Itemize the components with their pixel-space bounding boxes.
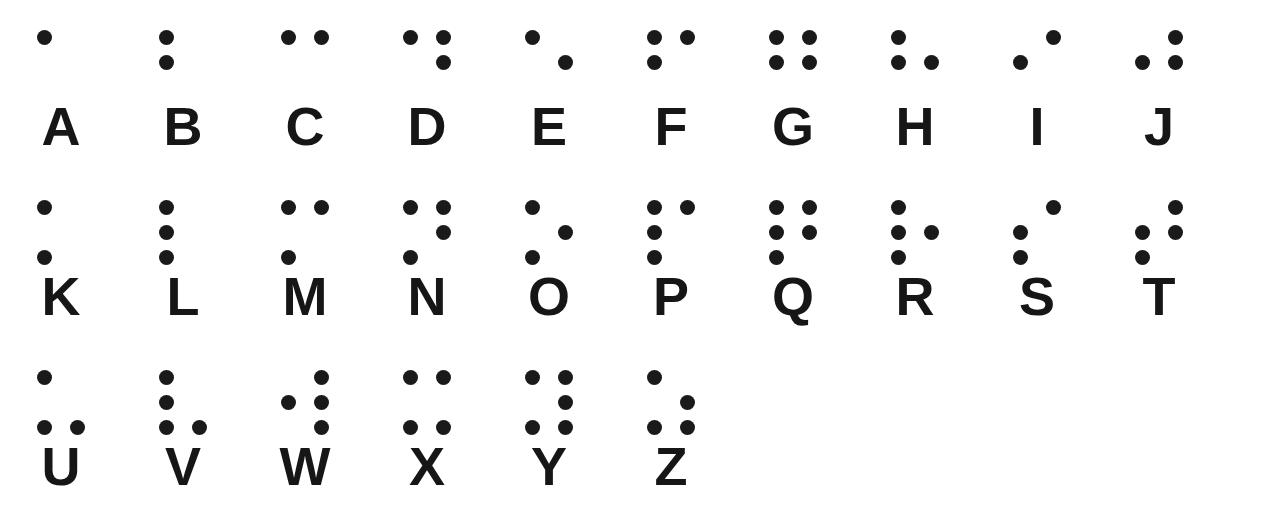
braille-dot-4-filled bbox=[436, 30, 451, 45]
braille-dot-3-filled bbox=[891, 250, 906, 265]
braille-dot-1-empty bbox=[1013, 30, 1028, 45]
braille-dot-1-filled bbox=[647, 200, 662, 215]
braille-cell-o: O bbox=[488, 170, 610, 340]
braille-dot-2-empty bbox=[281, 225, 296, 240]
braille-dot-4-filled bbox=[558, 370, 573, 385]
braille-dot-4-filled bbox=[314, 200, 329, 215]
braille-dot-4-filled bbox=[1046, 30, 1061, 45]
braille-dot-4-empty bbox=[192, 370, 207, 385]
braille-dot-5-filled bbox=[802, 225, 817, 240]
braille-dot-5-empty bbox=[192, 225, 207, 240]
braille-dot-4-filled bbox=[802, 200, 817, 215]
braille-dot-6-empty bbox=[802, 80, 817, 95]
braille-dot-1-filled bbox=[769, 200, 784, 215]
braille-dot-2-filled bbox=[647, 225, 662, 240]
braille-dot-1-filled bbox=[647, 30, 662, 45]
braille-dot-3-empty bbox=[403, 80, 418, 95]
braille-cell-p: P bbox=[610, 170, 732, 340]
braille-dot-1-filled bbox=[403, 30, 418, 45]
braille-dot-1-filled bbox=[769, 30, 784, 45]
braille-dot-4-empty bbox=[924, 30, 939, 45]
braille-dot-5-filled bbox=[436, 225, 451, 240]
braille-dot-4-empty bbox=[192, 30, 207, 45]
braille-dot-6-empty bbox=[680, 80, 695, 95]
braille-dot-5-empty bbox=[192, 55, 207, 70]
braille-dot-4-filled bbox=[436, 370, 451, 385]
braille-dot-6-empty bbox=[314, 80, 329, 95]
letter-label: L bbox=[122, 268, 244, 324]
braille-dot-3-filled bbox=[403, 420, 418, 435]
braille-cell-h: H bbox=[854, 0, 976, 170]
braille-dot-5-filled bbox=[558, 225, 573, 240]
braille-row-3: UVWXYZ bbox=[0, 340, 1288, 510]
letter-label: F bbox=[610, 98, 732, 154]
braille-dot-4-filled bbox=[1168, 200, 1183, 215]
braille-dot-1-filled bbox=[891, 200, 906, 215]
braille-dot-1-filled bbox=[403, 200, 418, 215]
braille-dot-5-empty bbox=[314, 55, 329, 70]
braille-dot-4-filled bbox=[436, 200, 451, 215]
braille-cell-v: V bbox=[122, 340, 244, 510]
braille-row-2: KLMNOPQRST bbox=[0, 170, 1288, 340]
braille-cell-u: U bbox=[0, 340, 122, 510]
braille-cell-k: K bbox=[0, 170, 122, 340]
braille-dot-1-filled bbox=[281, 200, 296, 215]
braille-dot-3-empty bbox=[525, 80, 540, 95]
braille-dot-3-filled bbox=[647, 420, 662, 435]
letter-label: V bbox=[122, 438, 244, 494]
braille-dot-6-empty bbox=[1168, 80, 1183, 95]
braille-dot-1-filled bbox=[37, 30, 52, 45]
braille-dot-1-filled bbox=[525, 30, 540, 45]
letter-label: R bbox=[854, 268, 976, 324]
braille-dot-6-empty bbox=[1046, 80, 1061, 95]
braille-dot-5-empty bbox=[1046, 225, 1061, 240]
braille-dot-1-filled bbox=[281, 30, 296, 45]
braille-dot-6-empty bbox=[924, 80, 939, 95]
braille-dot-4-filled bbox=[680, 30, 695, 45]
braille-dot-2-empty bbox=[37, 225, 52, 240]
braille-dot-2-filled bbox=[891, 55, 906, 70]
braille-dot-6-filled bbox=[314, 420, 329, 435]
braille-dot-3-filled bbox=[403, 250, 418, 265]
braille-dot-5-empty bbox=[436, 395, 451, 410]
braille-dot-1-empty bbox=[281, 370, 296, 385]
braille-dot-6-empty bbox=[1046, 250, 1061, 265]
braille-cell-x: X bbox=[366, 340, 488, 510]
letter-label: C bbox=[244, 98, 366, 154]
letter-label: D bbox=[366, 98, 488, 154]
braille-dot-1-filled bbox=[891, 30, 906, 45]
braille-dot-5-filled bbox=[802, 55, 817, 70]
braille-dot-1-filled bbox=[159, 370, 174, 385]
braille-dot-2-filled bbox=[1013, 55, 1028, 70]
braille-dot-5-empty bbox=[680, 55, 695, 70]
braille-dot-5-empty bbox=[680, 225, 695, 240]
letter-label: E bbox=[488, 98, 610, 154]
braille-dot-5-empty bbox=[70, 55, 85, 70]
braille-cell-y: Y bbox=[488, 340, 610, 510]
braille-dot-1-empty bbox=[1135, 200, 1150, 215]
letter-label: H bbox=[854, 98, 976, 154]
letter-label: P bbox=[610, 268, 732, 324]
letter-label: S bbox=[976, 268, 1098, 324]
braille-dot-5-filled bbox=[1168, 225, 1183, 240]
letter-label: I bbox=[976, 98, 1098, 154]
braille-dot-2-empty bbox=[525, 55, 540, 70]
braille-dot-2-filled bbox=[1135, 225, 1150, 240]
braille-dot-2-filled bbox=[159, 55, 174, 70]
braille-dot-4-filled bbox=[1046, 200, 1061, 215]
braille-dot-4-empty bbox=[70, 200, 85, 215]
braille-cell-i: I bbox=[976, 0, 1098, 170]
braille-dot-2-empty bbox=[281, 55, 296, 70]
braille-cell-s: S bbox=[976, 170, 1098, 340]
braille-dot-2-empty bbox=[37, 395, 52, 410]
braille-dot-3-filled bbox=[37, 250, 52, 265]
braille-cell-c: C bbox=[244, 0, 366, 170]
braille-cell-b: B bbox=[122, 0, 244, 170]
braille-dot-6-filled bbox=[436, 420, 451, 435]
braille-dot-6-empty bbox=[192, 80, 207, 95]
braille-dot-4-filled bbox=[1168, 30, 1183, 45]
braille-dot-6-filled bbox=[680, 420, 695, 435]
braille-dot-3-empty bbox=[159, 80, 174, 95]
letter-label: Y bbox=[488, 438, 610, 494]
braille-dot-6-empty bbox=[558, 80, 573, 95]
